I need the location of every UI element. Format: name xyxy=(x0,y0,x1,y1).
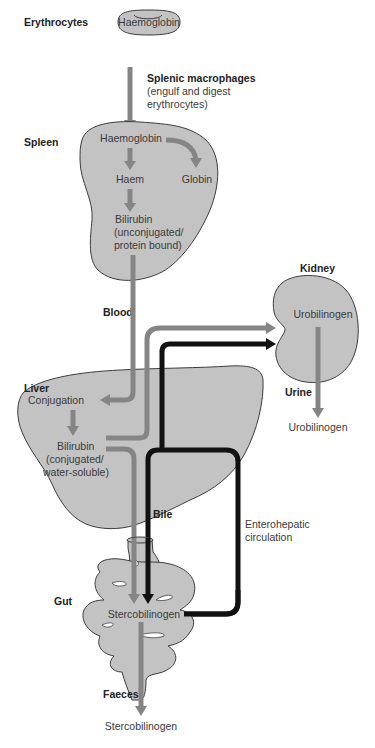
liver-bilirubin-desc-1: (conjugated/ xyxy=(46,453,104,465)
faeces-label: Faeces xyxy=(103,688,139,700)
faeces-stercobilinogen-label: Stercobilinogen xyxy=(105,720,178,732)
enterohepatic-label-1: Enterohepatic xyxy=(245,518,310,530)
bile-label: Bile xyxy=(153,508,172,520)
enterohepatic-label-2: circulation xyxy=(245,531,292,543)
kidney-urobilinogen-label: Urobilinogen xyxy=(294,308,353,320)
urine-urobilinogen-label: Urobilinogen xyxy=(289,421,348,433)
liver-bilirubin-label: Bilirubin xyxy=(57,440,95,452)
blood-label: Blood xyxy=(103,306,133,318)
liver-organ xyxy=(18,366,263,529)
spleen-haemoglobin-label: Haemoglobin xyxy=(100,132,162,144)
splenic-macrophages-label: Splenic macrophages xyxy=(147,72,256,84)
spleen-bilirubin-label: Bilirubin xyxy=(115,213,153,225)
erythrocytes-label: Erythrocytes xyxy=(24,16,88,28)
kidney-label: Kidney xyxy=(300,262,335,274)
liver-label: Liver xyxy=(24,382,49,394)
erythrocyte-haemoglobin-label: Haemoglobin xyxy=(118,16,180,28)
bilirubin-metabolism-diagram: Erythrocytes Haemoglobin Splenic macroph… xyxy=(0,0,375,748)
haem-label: Haem xyxy=(116,173,144,185)
urine-label: Urine xyxy=(285,386,312,398)
splenic-macrophages-desc-1: (engulf and digest xyxy=(147,85,231,97)
liver-bilirubin-desc-2: water-soluble) xyxy=(42,466,109,478)
splenic-macrophages-desc-2: erythrocytes) xyxy=(147,98,208,110)
gut-stercobilinogen-label: Stercobilinogen xyxy=(108,608,181,620)
gut-label: Gut xyxy=(54,595,73,607)
globin-label: Globin xyxy=(182,173,213,185)
spleen-organ xyxy=(80,122,218,281)
arrow-erythrocyte-to-spleen xyxy=(124,67,136,130)
conjugation-label: Conjugation xyxy=(28,394,84,406)
spleen-label: Spleen xyxy=(24,136,58,148)
spleen-bilirubin-desc-1: (unconjugated/ xyxy=(114,226,184,238)
spleen-bilirubin-desc-2: protein bound) xyxy=(114,239,182,251)
